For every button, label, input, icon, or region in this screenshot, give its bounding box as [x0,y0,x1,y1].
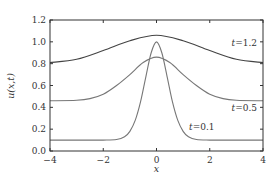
y-tick-label: 0.6 [32,81,47,91]
annotation-layer: t=1.2t=0.5t=0.1 [189,38,257,132]
series-annotation: t=1.2 [232,38,257,48]
x-tick-label: −4 [43,155,57,165]
x-tick-label: 4 [260,155,266,165]
series-layer [50,35,263,140]
x-tick-label: −2 [97,155,110,165]
y-tick-label: 0.2 [32,124,46,134]
y-axis-label: u(x,t) [5,73,16,99]
y-tick-label: 0.0 [32,146,47,156]
y-tick-label: 0.8 [32,59,47,69]
line-chart: −4−20240.00.20.40.60.81.01.2 x u(x,t) t=… [0,0,277,181]
y-tick-label: 1.2 [32,15,46,25]
series-annotation: t=0.1 [189,122,214,132]
y-tick-label: 1.0 [32,37,47,47]
x-tick-label: 2 [207,155,213,165]
series-annotation: t=0.5 [232,103,258,113]
series-line-t-0-5 [50,57,263,101]
y-tick-label: 0.4 [32,102,47,112]
x-axis-label: x [154,163,160,174]
